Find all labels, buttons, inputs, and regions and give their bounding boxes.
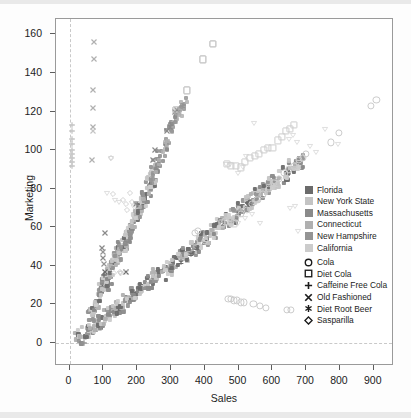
- marker-square-filled: [143, 197, 147, 201]
- data-point-plus: [101, 272, 108, 279]
- marker-square-filled: [133, 214, 137, 218]
- marker-square-filled: [286, 167, 290, 171]
- marker-square-filled: [124, 244, 128, 248]
- marker-square-filled: [118, 252, 122, 256]
- marker-square-filled: [293, 164, 297, 168]
- x-icon: [301, 293, 316, 302]
- marker-square-filled: [152, 181, 156, 185]
- marker-square-filled: [168, 268, 172, 272]
- marker-square-filled: [247, 199, 251, 203]
- data-point-x: [90, 39, 97, 46]
- data-point-diamond: [124, 207, 130, 213]
- marker-square-filled: [189, 240, 193, 244]
- legend-color-item-massachusetts[interactable]: Massachusetts: [301, 207, 397, 219]
- marker-square-filled: [110, 258, 114, 262]
- legend-color-item-california[interactable]: California: [301, 242, 397, 254]
- marker-square-filled: [266, 181, 270, 185]
- marker-square-filled: [151, 185, 155, 189]
- marker-square-filled: [93, 304, 97, 308]
- marker-square-filled: [116, 254, 120, 258]
- marker-square-filled: [132, 209, 136, 213]
- marker-square-filled: [146, 285, 150, 289]
- marker-square-filled: [186, 247, 190, 251]
- legend-shape-item-caffeine-free-cola[interactable]: Caffeine Free Cola: [301, 280, 397, 292]
- marker-square-filled: [156, 162, 160, 166]
- marker-square-filled: [297, 156, 301, 160]
- marker-square-filled: [185, 258, 189, 262]
- legend-color-item-connecticut[interactable]: Connecticut: [301, 219, 397, 231]
- marker-square-filled: [124, 294, 128, 298]
- marker-square-filled: [182, 107, 186, 111]
- marker-square-filled: [282, 181, 286, 185]
- data-point-x: [89, 87, 96, 94]
- y-tick-label: 140: [2, 66, 42, 78]
- marker-square-filled: [175, 256, 179, 260]
- marker-square-filled: [146, 175, 150, 179]
- diamond-icon: [301, 316, 316, 325]
- legend-shape-item-diet-cola[interactable]: Diet Cola: [301, 268, 397, 280]
- marker-square-filled: [277, 168, 281, 172]
- data-point-circle: [225, 295, 232, 302]
- data-point-square: [290, 121, 297, 128]
- marker-square-filled: [243, 205, 247, 209]
- marker-square-filled: [174, 120, 178, 124]
- marker-square-filled: [148, 188, 152, 192]
- marker-square-filled: [154, 167, 158, 171]
- marker-square-filled: [143, 194, 147, 198]
- square-icon: [301, 269, 316, 278]
- marker-square-filled: [151, 274, 155, 278]
- marker-square-filled: [161, 269, 165, 273]
- marker-square-filled: [137, 283, 141, 287]
- legend-label: Massachusetts: [316, 209, 373, 217]
- marker-square-filled: [234, 214, 238, 218]
- x-tick-mark: [238, 365, 239, 370]
- marker-square-filled: [169, 266, 173, 270]
- data-point-x: [89, 104, 96, 111]
- x-tick-mark: [339, 365, 340, 370]
- marker-square-filled: [244, 198, 248, 202]
- legend-color-item-florida[interactable]: Florida: [301, 184, 397, 196]
- marker-square-filled: [189, 251, 193, 255]
- marker-square-filled: [85, 326, 89, 330]
- marker-square-filled: [135, 209, 139, 213]
- marker-square-filled: [151, 281, 155, 285]
- marker-square-filled: [178, 252, 182, 256]
- data-point-diamond: [120, 197, 126, 203]
- marker-square-filled: [231, 207, 235, 211]
- legend-shape-item-cola[interactable]: Cola: [301, 257, 397, 269]
- marker-square-filled: [105, 283, 109, 287]
- data-point-square: [172, 106, 179, 113]
- marker-square-filled: [193, 244, 197, 248]
- legend-shape-item-old-fashioned[interactable]: Old Fashioned: [301, 291, 397, 303]
- marker-square-filled: [215, 222, 219, 226]
- marker-square-filled: [156, 273, 160, 277]
- data-point-x: [89, 123, 96, 130]
- marker-square-filled: [179, 105, 183, 109]
- marker-square-filled: [129, 286, 133, 290]
- marker-square-filled: [143, 280, 147, 284]
- data-point-triangle: [116, 199, 122, 205]
- data-point-diamond: [129, 199, 135, 205]
- marker-square-filled: [144, 179, 148, 183]
- legend-shape-item-diet-root-beer[interactable]: Diet Root Beer: [301, 303, 397, 315]
- marker-square-filled: [251, 198, 255, 202]
- marker-square-filled: [109, 281, 113, 285]
- marker-square-filled: [199, 246, 203, 250]
- marker-square-filled: [171, 121, 175, 125]
- legend-color-item-new-hampshire[interactable]: New Hampshire: [301, 230, 397, 242]
- marker-square-filled: [270, 174, 274, 178]
- y-tick-label: 40: [2, 259, 42, 271]
- marker-square-filled: [178, 254, 182, 258]
- marker-square-filled: [168, 263, 172, 267]
- legend-shape-item-sasparilla[interactable]: Sasparilla: [301, 315, 397, 327]
- legend-label: Florida: [316, 186, 343, 194]
- legend-color-item-new-york-state[interactable]: New York State: [301, 196, 397, 208]
- marker-square-filled: [151, 275, 155, 279]
- marker-square-filled: [129, 296, 133, 300]
- marker-square-filled: [120, 247, 124, 251]
- chart-legend[interactable]: FloridaNew York StateMassachusettsConnec…: [301, 184, 397, 326]
- data-point-triangle: [322, 126, 328, 132]
- marker-square-filled: [170, 258, 174, 262]
- marker-square-filled: [267, 191, 271, 195]
- marker-square-filled: [123, 233, 127, 237]
